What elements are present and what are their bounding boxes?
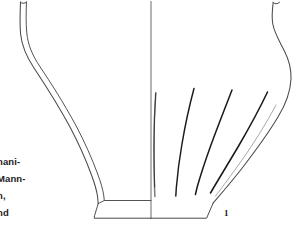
vessel-base-exterior-left bbox=[94, 204, 151, 219]
figure-number-label: 1 bbox=[224, 208, 229, 218]
caption-line-2: Mann- bbox=[0, 170, 34, 187]
caption-line-4: nd bbox=[0, 204, 34, 221]
vessel-outer-profile-right bbox=[213, 2, 291, 203]
caption-line-3: n, bbox=[0, 187, 34, 204]
caption-text-block: nani- Mann- n, nd bbox=[0, 153, 34, 221]
vessel-rim-lip-right bbox=[273, 2, 280, 4]
decoration-groove-3 bbox=[195, 90, 232, 195]
decoration-groove-4 bbox=[211, 92, 268, 193]
vessel-rim-lip-left bbox=[21, 2, 27, 3]
decoration-groove-2 bbox=[176, 89, 194, 197]
vessel-drawing bbox=[0, 0, 299, 236]
decoration-groove-4-shadow bbox=[216, 105, 277, 196]
vessel-foot-junction-left bbox=[98, 201, 104, 204]
vessel-inner-profile-left bbox=[26, 2, 104, 201]
vessel-base-exterior-right bbox=[151, 203, 213, 218]
figure-root: nani- Mann- n, nd 1 bbox=[0, 0, 299, 236]
caption-line-1: nani- bbox=[0, 153, 34, 170]
